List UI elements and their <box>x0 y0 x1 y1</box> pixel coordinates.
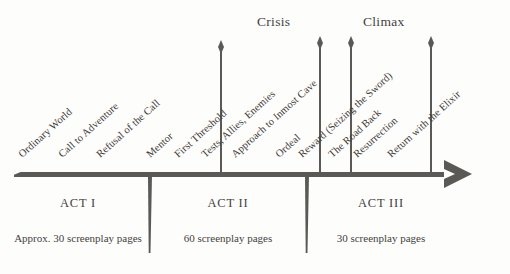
act-name-i: ACT I <box>0 196 156 211</box>
finale-spear-head-icon <box>428 36 434 43</box>
timeline-axis <box>14 172 454 177</box>
act-pages-ii: 60 screenplay pages <box>152 232 304 244</box>
crisis-spear-head-icon <box>218 40 224 47</box>
midpoint-spear-head-icon <box>317 36 323 43</box>
midpoint-spear-shaft <box>319 48 321 173</box>
act-name-ii: ACT II <box>152 196 304 211</box>
act-pages-i: Approx. 30 screenplay pages <box>0 232 156 244</box>
act-pages-iii: 30 screenplay pages <box>308 232 454 244</box>
timeline-arrow-notch-icon <box>444 169 455 179</box>
peak-label-climax: Climax <box>363 14 405 30</box>
stage-label-ordeal: Ordeal <box>273 132 302 160</box>
hero-journey-diagram: Crisis Climax Ordinary World Call to Adv… <box>0 0 510 274</box>
climax-spear-head-icon <box>348 36 354 43</box>
peak-label-crisis: Crisis <box>257 14 290 30</box>
act-name-iii: ACT III <box>308 196 454 211</box>
stage-label-mentor: Mentor <box>144 130 175 159</box>
